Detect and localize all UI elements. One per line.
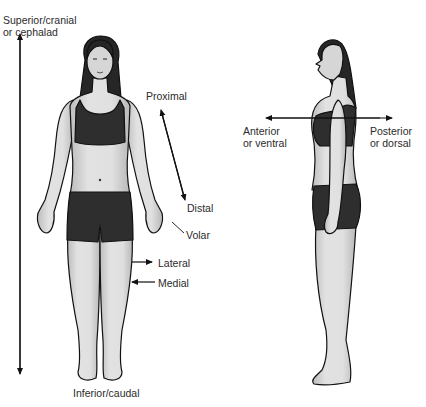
label-dorsal: or dorsal (370, 137, 411, 149)
label-ventral: or ventral (243, 137, 287, 149)
label-volar: Volar (186, 229, 210, 241)
label-posterior: Posterior (370, 125, 412, 137)
label-medial: Medial (158, 277, 189, 289)
label-distal: Distal (187, 202, 213, 214)
label-cephalad: or cephalad (3, 26, 58, 38)
label-superior: Superior/cranial (3, 14, 77, 26)
label-lateral: Lateral (158, 257, 190, 269)
volar-pointer (172, 222, 184, 233)
proximal-distal-arrow (161, 110, 185, 200)
anterior-figure (37, 36, 162, 380)
label-anterior: Anterior (243, 125, 280, 137)
label-inferior: Inferior/caudal (73, 387, 140, 399)
lateral-figure (312, 40, 361, 385)
label-proximal: Proximal (146, 90, 187, 102)
